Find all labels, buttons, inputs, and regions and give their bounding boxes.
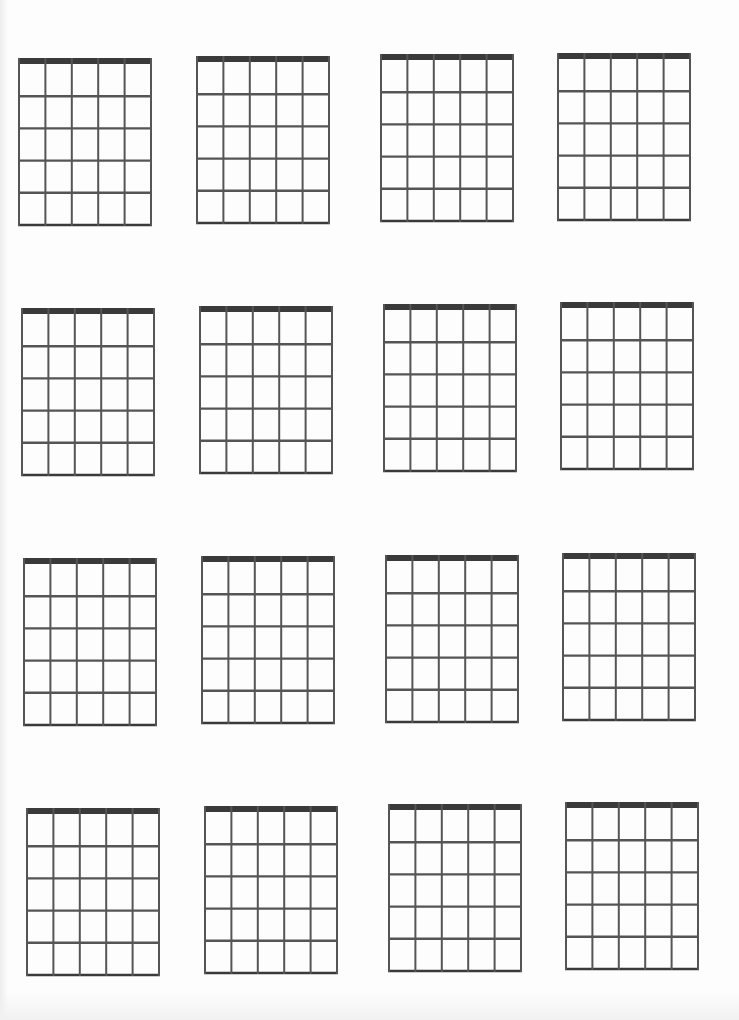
fretboard-grid — [562, 553, 696, 721]
fretboard-grid — [557, 53, 691, 221]
fretboard-grid — [26, 808, 160, 976]
chord-diagram — [21, 308, 155, 476]
scan-bottom-shadow — [0, 992, 739, 1020]
fretboard-grid — [385, 555, 519, 723]
chord-diagram — [18, 58, 152, 226]
nut-bar — [565, 802, 699, 808]
fretboard-grid — [560, 302, 694, 470]
nut-bar — [199, 306, 333, 312]
nut-bar — [560, 302, 694, 308]
chord-diagram — [26, 808, 160, 976]
fretboard-grid — [23, 558, 157, 726]
nut-bar — [21, 308, 155, 314]
nut-bar — [196, 56, 330, 62]
chord-diagram — [204, 806, 338, 974]
scan-edge-shadow — [0, 0, 8, 1020]
nut-bar — [26, 808, 160, 814]
chord-diagram — [201, 556, 335, 724]
chord-diagram — [23, 558, 157, 726]
nut-bar — [562, 553, 696, 559]
chord-diagram — [199, 306, 333, 474]
nut-bar — [385, 555, 519, 561]
chord-diagram — [565, 802, 699, 970]
fretboard-grid — [21, 308, 155, 476]
nut-bar — [201, 556, 335, 562]
fretboard-grid — [18, 58, 152, 226]
chord-diagram — [383, 304, 517, 472]
fretboard-grid — [388, 804, 522, 972]
nut-bar — [557, 53, 691, 59]
chord-sheet-page — [0, 0, 739, 1020]
fretboard-grid — [201, 556, 335, 724]
fretboard-grid — [196, 56, 330, 224]
nut-bar — [383, 304, 517, 310]
fretboard-grid — [565, 802, 699, 970]
chord-diagram — [562, 553, 696, 721]
chord-diagram — [196, 56, 330, 224]
nut-bar — [204, 806, 338, 812]
chord-diagram — [385, 555, 519, 723]
nut-bar — [388, 804, 522, 810]
fretboard-grid — [204, 806, 338, 974]
chord-diagram — [388, 804, 522, 972]
fretboard-grid — [383, 304, 517, 472]
nut-bar — [380, 54, 514, 60]
chord-diagram — [380, 54, 514, 222]
nut-bar — [18, 58, 152, 64]
chord-diagram — [560, 302, 694, 470]
fretboard-grid — [380, 54, 514, 222]
nut-bar — [23, 558, 157, 564]
fretboard-grid — [199, 306, 333, 474]
chord-diagram — [557, 53, 691, 221]
